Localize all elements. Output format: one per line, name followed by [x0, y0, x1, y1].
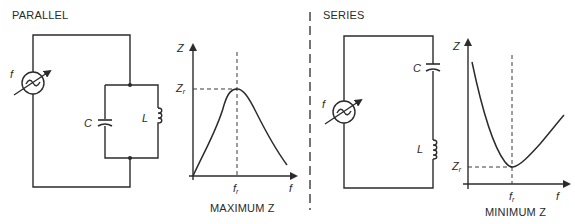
- series-capacitor-label: C: [413, 62, 421, 74]
- series-section: SERIES f C L Z Zr: [322, 9, 569, 218]
- ac-source-icon: [325, 100, 361, 124]
- resonance-diagram: PARALLEL f C L: [0, 0, 575, 224]
- inductor-icon: [158, 108, 162, 125]
- impedance-curve-min: [472, 62, 564, 167]
- inductor-icon: [433, 140, 437, 159]
- series-circuit-wires: [344, 36, 433, 188]
- max-graph-caption: MAXIMUM Z: [210, 202, 275, 214]
- min-z-graph: Z Zr fr f MINIMUM Z: [451, 40, 569, 218]
- max-graph-x-label: f: [289, 182, 293, 194]
- max-graph-fr-label: fr: [233, 182, 239, 195]
- junction-dot-bottom: [128, 156, 132, 160]
- parallel-source-label: f: [10, 68, 14, 80]
- max-graph-y-label: Z: [176, 42, 185, 54]
- parallel-capacitor-label: C: [84, 117, 92, 129]
- max-z-graph: Z Zr fr f MAXIMUM Z: [175, 42, 296, 214]
- series-inductor-label: L: [417, 143, 423, 155]
- parallel-title: PARALLEL: [12, 9, 68, 21]
- min-graph-fr-label: fr: [509, 190, 515, 203]
- junction-dot-top: [128, 83, 132, 87]
- min-graph-caption: MINIMUM Z: [485, 206, 546, 218]
- series-source-label: f: [322, 98, 326, 110]
- capacitor-icon: [426, 64, 440, 71]
- impedance-curve-max: [193, 89, 287, 176]
- min-graph-zr-label: Zr: [451, 160, 462, 173]
- min-graph-x-label: f: [556, 190, 560, 202]
- parallel-section: PARALLEL f C L: [10, 9, 296, 214]
- parallel-inductor-label: L: [142, 112, 148, 124]
- min-graph-y-label: Z: [452, 40, 461, 52]
- max-graph-zr-label: Zr: [175, 82, 186, 95]
- series-title: SERIES: [323, 9, 365, 21]
- capacitor-icon: [98, 120, 112, 126]
- parallel-circuit-wires: [33, 35, 158, 187]
- ac-source-icon: [14, 71, 50, 95]
